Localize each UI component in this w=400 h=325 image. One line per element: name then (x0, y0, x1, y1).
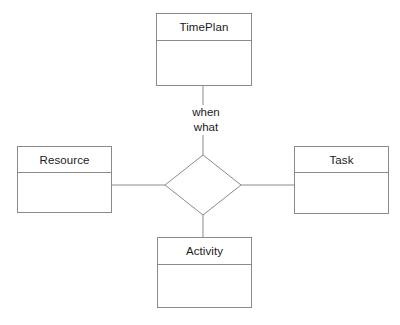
edge-label-what: what (178, 120, 234, 135)
entity-activity[interactable]: Activity (157, 237, 252, 308)
entity-timeplan-body (157, 41, 251, 85)
entity-task[interactable]: Task (294, 146, 389, 214)
diagram-canvas: TimePlan Resource Task Activity when wha… (0, 0, 400, 325)
entity-timeplan-title: TimePlan (157, 14, 251, 41)
entity-activity-body (158, 265, 251, 307)
relationship-diamond[interactable] (165, 155, 241, 215)
entity-timeplan[interactable]: TimePlan (156, 13, 252, 86)
entity-task-title: Task (295, 147, 388, 173)
edge-label-when: when (178, 105, 234, 120)
entity-task-body (295, 173, 388, 213)
entity-resource-body (18, 173, 111, 212)
entity-activity-title: Activity (158, 238, 251, 265)
entity-resource[interactable]: Resource (17, 146, 112, 213)
entity-resource-title: Resource (18, 147, 111, 173)
